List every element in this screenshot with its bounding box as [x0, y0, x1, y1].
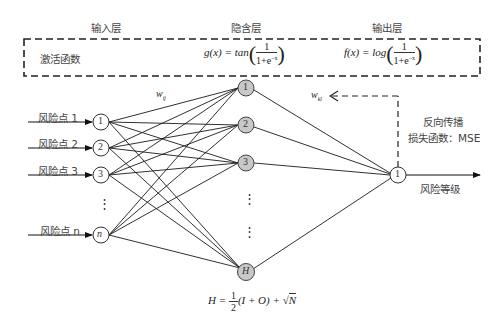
frac-num: 1: [256, 41, 277, 53]
formula-sqrt-arg: N: [289, 293, 296, 306]
input-node-1: 1: [98, 115, 103, 126]
loss-function-label: 损失函数：MSE: [408, 130, 480, 145]
frac-den: 1+e: [256, 55, 271, 66]
frac-den: 1+e: [394, 55, 409, 66]
formula-lhs: H =: [208, 294, 226, 306]
weight-wkl: wkl: [311, 89, 322, 102]
output-func-lhs: f(x) = log: [344, 46, 386, 58]
output-label: 风险等级: [420, 181, 460, 196]
hidden-func-lhs: g(x) = tan: [204, 46, 249, 58]
hidden-node-3: 3: [243, 156, 248, 167]
sqrt-icon: √: [283, 294, 289, 306]
hidden-output-connections: [253, 90, 391, 269]
hidden-size-formula: H = 12(I + O) + √N: [208, 290, 296, 313]
input-layer-title: 输入层: [91, 20, 121, 35]
hidden-nodes: [238, 80, 255, 281]
hidden-ellipsis-2: ⋮: [243, 224, 256, 239]
hidden-activation-formula: g(x) = tan(11+e−x): [204, 41, 285, 66]
hidden-layer-title: 隐含层: [231, 20, 261, 35]
formula-den: 2: [229, 302, 238, 313]
input-node-n: n: [97, 228, 102, 239]
hidden-node-2: 2: [243, 118, 248, 129]
input-label-1: 风险点 1: [38, 110, 78, 125]
formula-num: 1: [229, 290, 238, 302]
output-activation-formula: f(x) = log(11+e−x): [344, 41, 422, 66]
hidden-ellipsis-1: ⋮: [243, 191, 256, 206]
input-ellipsis: ⋮: [98, 196, 111, 211]
output-layer-title: 输出层: [372, 20, 402, 35]
input-node-2: 2: [98, 141, 103, 152]
backprop-title: 反向传播: [423, 114, 463, 129]
input-label-3: 风险点 3: [38, 163, 78, 178]
input-label-2: 风险点 2: [38, 136, 78, 151]
formula-rhs: (I + O) +: [238, 294, 283, 306]
frac-num: 1: [394, 41, 415, 53]
input-node-3: 3: [98, 168, 103, 179]
activation-label: 激活函数: [40, 51, 80, 66]
input-hidden-connections: [109, 88, 240, 268]
output-node-1: 1: [395, 168, 400, 179]
hidden-node-1: 1: [243, 81, 248, 92]
weight-wij: wij: [156, 88, 166, 101]
input-label-n: 风险点 n: [40, 223, 80, 238]
hidden-node-h: H: [242, 265, 249, 276]
